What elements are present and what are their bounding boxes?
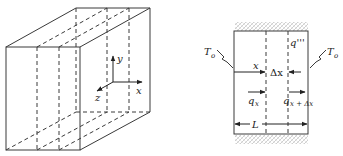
hidden-bottom-left-edge xyxy=(6,112,76,150)
slice-plane-2-top xyxy=(59,8,129,47)
slice-plane-1-top xyxy=(37,8,107,47)
hatch-bottom xyxy=(235,135,308,144)
q-out-symbol: q xyxy=(283,95,289,106)
slab-cross-section-figure: q''' T o T o x Δx q x q x + Δx L xyxy=(204,22,338,144)
slab-3d-figure: y x z xyxy=(6,8,150,150)
right-temp-subscript: o xyxy=(334,52,338,60)
top-face xyxy=(6,8,150,47)
z-axis-arrow xyxy=(97,82,113,91)
left-ambient-temp: T o xyxy=(204,46,233,68)
slice-plane-2-bottom xyxy=(59,112,129,150)
left-convection-squiggle-icon xyxy=(217,50,233,68)
left-temp-subscript: o xyxy=(211,52,215,60)
right-ambient-temp: T o xyxy=(310,46,338,68)
x-position-label: x xyxy=(253,60,259,71)
slice-plane-1-bottom xyxy=(37,112,107,150)
y-axis-label: y xyxy=(116,53,123,64)
coordinate-axes: y x z xyxy=(94,53,142,103)
front-face xyxy=(6,47,80,150)
diagram-canvas: y x z q''' T o T o x Δx xyxy=(0,0,343,156)
z-axis-label: z xyxy=(94,92,101,103)
length-label: L xyxy=(251,119,259,130)
generation-label: q''' xyxy=(290,37,305,48)
right-convection-squiggle-icon xyxy=(310,50,326,68)
q-in-symbol: q xyxy=(248,95,254,106)
hatch-top xyxy=(235,22,308,31)
q-in-subscript: x xyxy=(255,100,259,108)
x-axis-label: x xyxy=(136,85,142,96)
q-out-subscript: x + Δx xyxy=(290,100,313,108)
delta-x-label: Δx xyxy=(270,67,283,78)
